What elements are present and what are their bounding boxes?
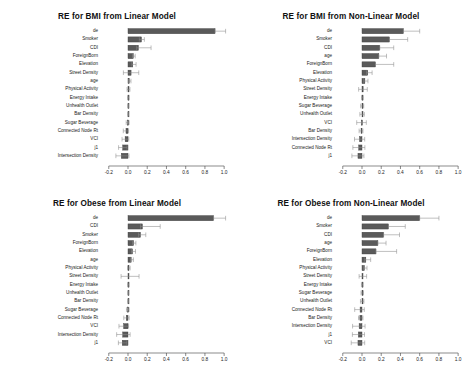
category-label: CDI	[4, 224, 98, 229]
category-label: j1	[238, 332, 332, 337]
figure-grid: RE for BMI from Linear Model deSmokerCDI…	[0, 0, 468, 375]
category-label: Smoker	[4, 37, 98, 42]
x-tick-label: -0.2	[105, 357, 113, 362]
category-label: Bar Density	[238, 129, 332, 134]
category-label: Connected Node Rt	[4, 129, 98, 134]
axis-labels: deSmokerCDIageForeignBornElevationPhysic…	[234, 0, 468, 187]
category-label: Street Density	[4, 274, 98, 279]
x-tick-label: 0.8	[202, 357, 209, 362]
category-label: Unhealth Outlet	[238, 112, 332, 117]
category-label: Elevation	[238, 70, 332, 75]
category-label: Bar Density	[4, 299, 98, 304]
category-label: ForeignBorn	[238, 249, 332, 254]
x-tick-label: 1.0	[455, 170, 462, 175]
category-label: VCI	[238, 341, 332, 346]
category-label: j1	[4, 341, 98, 346]
category-label: Elevation	[4, 249, 98, 254]
x-tick-label: 0.0	[125, 170, 132, 175]
category-label: age	[4, 79, 98, 84]
x-tick-label: 0.4	[163, 170, 170, 175]
category-label: VCI	[4, 137, 98, 142]
category-label: Sugar Beverage	[238, 291, 332, 296]
x-tick-label: 1.0	[221, 170, 228, 175]
category-label: age	[238, 54, 332, 59]
category-label: de	[238, 29, 332, 34]
x-tick-label: 0.0	[359, 170, 366, 175]
category-label: Elevation	[4, 62, 98, 67]
x-tick-label: 0.2	[378, 170, 385, 175]
axis-labels: deCDISmokerForeignBornElevationagePhysic…	[0, 187, 234, 374]
x-tick-label: 0.2	[378, 357, 385, 362]
category-label: age	[4, 257, 98, 262]
category-label: Energy Intake	[238, 282, 332, 287]
x-tick-label: 1.0	[455, 357, 462, 362]
category-label: Sugar Beverage	[4, 307, 98, 312]
category-label: Energy Intake	[4, 95, 98, 100]
category-label: Physical Activity	[238, 266, 332, 271]
category-label: CDI	[238, 45, 332, 50]
category-label: Street Density	[4, 70, 98, 75]
category-label: Bar Density	[4, 112, 98, 117]
x-tick-label: 0.0	[125, 357, 132, 362]
x-tick-label: 0.6	[416, 170, 423, 175]
category-label: Connected Node Rt	[4, 316, 98, 321]
x-tick-label: 0.4	[397, 357, 404, 362]
x-tick-label: 0.6	[182, 357, 189, 362]
category-label: CDI	[238, 232, 332, 237]
category-label: CDI	[4, 45, 98, 50]
x-tick-label: 0.2	[144, 357, 151, 362]
axis-labels: deSmokerCDIForeignBornElevationStreet De…	[0, 0, 234, 187]
category-label: Bar Density	[238, 316, 332, 321]
category-label: Sugar Beverage	[238, 104, 332, 109]
category-label: Connected Node Rt	[238, 145, 332, 150]
panel-bmi-nonlinear: RE for BMI from Non-Linear Model deSmoke…	[234, 0, 468, 187]
category-label: Physical Activity	[238, 79, 332, 84]
x-tick-label: -0.2	[339, 357, 347, 362]
category-label: Energy Intake	[4, 282, 98, 287]
x-tick-label: 0.6	[182, 170, 189, 175]
category-label: Sugar Beverage	[4, 120, 98, 125]
category-label: Smoker	[238, 37, 332, 42]
x-tick-label: 0.8	[202, 170, 209, 175]
category-label: j1	[4, 145, 98, 150]
x-tick-label: 0.8	[436, 357, 443, 362]
category-label: Physical Activity	[4, 87, 98, 92]
axis-labels: deSmokerCDIageForeignBornElevationPhysic…	[234, 187, 468, 374]
category-label: Intersection Density	[238, 137, 332, 142]
category-label: ForeignBorn	[238, 62, 332, 67]
x-tick-label: -0.2	[105, 170, 113, 175]
x-tick-label: -0.2	[339, 170, 347, 175]
category-label: Physical Activity	[4, 266, 98, 271]
category-label: de	[4, 216, 98, 221]
category-label: Unhealth Outlet	[4, 104, 98, 109]
category-label: Energy Intake	[238, 95, 332, 100]
category-label: Smoker	[238, 224, 332, 229]
panel-obese-nonlinear: RE for Obese from Non-Linear Model deSmo…	[234, 187, 468, 374]
category-label: VCI	[4, 324, 98, 329]
category-label: ForeignBorn	[4, 241, 98, 246]
category-label: Intersection Density	[4, 332, 98, 337]
category-label: VCI	[238, 120, 332, 125]
panel-obese-linear: RE for Obese from Linear Model deCDISmok…	[0, 187, 234, 374]
category-label: de	[4, 29, 98, 34]
x-tick-label: 1.0	[221, 357, 228, 362]
panel-bmi-linear: RE for BMI from Linear Model deSmokerCDI…	[0, 0, 234, 187]
category-label: Intersection Density	[238, 324, 332, 329]
category-label: ForeignBorn	[4, 54, 98, 59]
category-label: age	[238, 241, 332, 246]
category-label: Intersection Density	[4, 154, 98, 159]
category-label: j1	[238, 154, 332, 159]
x-tick-label: 0.2	[144, 170, 151, 175]
x-tick-label: 0.8	[436, 170, 443, 175]
category-label: Elevation	[238, 257, 332, 262]
x-tick-label: 0.4	[397, 170, 404, 175]
x-tick-label: 0.4	[163, 357, 170, 362]
category-label: de	[238, 216, 332, 221]
category-label: Connected Node Rt	[238, 307, 332, 312]
category-label: Unhealth Outlet	[4, 291, 98, 296]
category-label: Street Density	[238, 87, 332, 92]
x-tick-label: 0.0	[359, 357, 366, 362]
category-label: Street Density	[238, 274, 332, 279]
category-label: Smoker	[4, 232, 98, 237]
x-tick-label: 0.6	[416, 357, 423, 362]
